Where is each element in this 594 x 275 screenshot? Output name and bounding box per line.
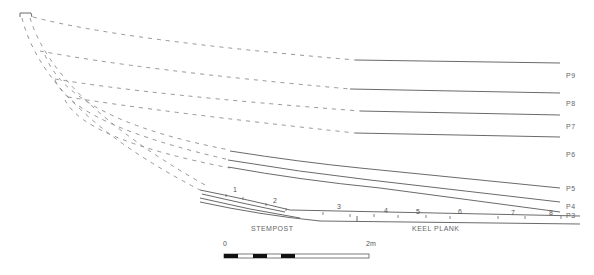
frame-2: 2 [273,197,277,204]
keel-plank [200,202,580,224]
strake-p8 [350,89,560,93]
strake-p8-dashed [40,51,350,89]
frame-7: 7 [511,209,515,216]
scale-bar [224,254,369,258]
frame-3: 3 [337,203,341,210]
strake-p4 [228,160,560,202]
strake-p7 [360,111,560,115]
stem-top-mark [20,13,32,17]
strake-label-p6: P6 [566,151,576,158]
strake-label-p4: P4 [566,203,576,210]
strake-p7-dashed [55,79,360,111]
hull-drawing [0,0,594,275]
frame-8: 8 [549,209,553,216]
frame-4: 4 [384,207,388,214]
strake-label-p3: P3 [566,212,576,219]
scale-start: 0 [223,240,227,247]
keel-plank-label: KEEL PLANK [412,225,460,232]
strake-p3 [200,190,580,216]
strake-label-p9: P9 [566,72,576,79]
strake-p9-dashed [33,17,355,60]
strake-p6 [355,133,560,137]
stempost-label: STEMPOST [251,225,294,232]
strake-label-p8: P8 [566,100,576,107]
strake-label-p7: P7 [566,123,576,130]
frame-6: 6 [458,208,462,215]
frame-5: 5 [416,208,420,215]
scale-end: 2m [366,240,376,247]
strake-p9 [355,60,560,63]
strake-label-p5: P5 [566,185,576,192]
frame-1: 1 [233,186,237,193]
